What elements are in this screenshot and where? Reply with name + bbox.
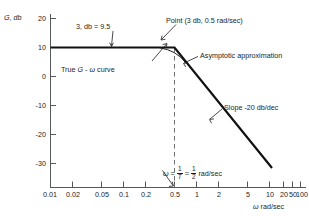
- y-tick-label-20: 20: [22, 15, 46, 22]
- x-tick-label-0-05: 0.05: [95, 191, 109, 198]
- true-curve-label-leader: [152, 44, 167, 62]
- x-tick-label-0-01: 0.01: [43, 191, 57, 198]
- annotation-asymptotic-approximation: Asymptotic approximation: [200, 52, 282, 59]
- y-tick-label-10: 10: [22, 44, 46, 51]
- annotation-slope: Slope -20 db/dec: [224, 104, 278, 111]
- annotation-corner-frequency: ω = 1T = 12 rad/sec: [163, 166, 222, 180]
- x-tick-label-1: 1: [195, 191, 199, 198]
- x-tick-label-0-2: 0.2: [141, 191, 151, 198]
- annotation-true-g-omega-curve: True G - ω curve: [61, 66, 115, 73]
- x-tick-label-0-1: 0.1: [119, 191, 129, 198]
- annotation-breakpoint: Point (3 db, 0.5 rad/sec): [166, 17, 243, 24]
- x-tick-label-20: 20: [280, 191, 288, 198]
- bode-magnitude-plot: G, db 20 10 0 -10 -20 -30 0.01 0.02 0.05…: [0, 0, 309, 216]
- x-tick-label-100: 100: [296, 191, 308, 198]
- breakpoint-label-leader: [161, 25, 176, 41]
- y-tick-label-minus-30: -30: [22, 160, 46, 167]
- y-tick-label-minus-20: -20: [22, 131, 46, 138]
- annotation-low-frequency-gain: 3, db = 9.5: [76, 23, 110, 30]
- y-tick-label-0: 0: [22, 73, 46, 80]
- x-axis-title: ω rad/sec: [253, 203, 284, 210]
- y-tick-marks: [51, 19, 57, 164]
- slope-label-leader: [210, 109, 223, 123]
- x-tick-label-0-5: 0.5: [170, 191, 180, 198]
- x-tick-label-2: 2: [217, 191, 221, 198]
- x-tick-label-5: 5: [246, 191, 250, 198]
- y-tick-label-minus-10: -10: [22, 102, 46, 109]
- x-tick-label-10: 10: [266, 191, 274, 198]
- x-tick-marks: [51, 182, 301, 188]
- y-axis-title: G, db: [4, 14, 22, 21]
- x-tick-label-0-02: 0.02: [66, 191, 80, 198]
- gain-label-leader: [110, 31, 114, 47]
